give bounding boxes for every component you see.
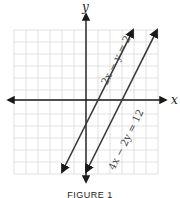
figure-caption: FIGURE 1 — [67, 190, 113, 198]
x-axis-label: x — [171, 93, 178, 107]
figure-canvas: x y 2x − y = 2 4x − 2y = 12 FIGURE 1 — [0, 0, 180, 198]
series-group — [62, 30, 157, 172]
y-axis-label: y — [81, 0, 89, 14]
